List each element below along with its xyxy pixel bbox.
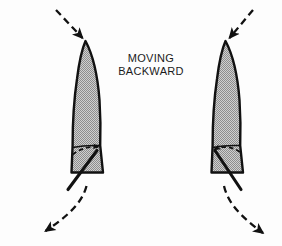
- left-boat-wake-arrow: [46, 186, 87, 231]
- right-boat-wake-arrow: [224, 186, 263, 233]
- right-boat: [212, 10, 264, 233]
- caption-line-2: BACKWARD: [105, 65, 197, 78]
- figure-canvas: MOVING BACKWARD: [0, 0, 282, 246]
- right-boat-approach-arrow: [230, 10, 254, 38]
- figure-caption: MOVING BACKWARD: [105, 52, 197, 78]
- left-boat-approach-arrow: [56, 10, 83, 38]
- caption-line-1: MOVING: [105, 52, 197, 65]
- left-boat: [46, 10, 104, 231]
- sailboat-steering-diagram: [0, 0, 282, 246]
